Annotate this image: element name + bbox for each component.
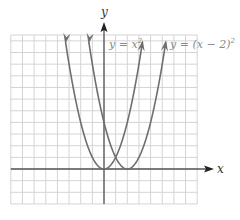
curve-label-exponent: 2: [137, 37, 143, 45]
curve-label-text: y = x: [108, 38, 138, 51]
curve-label-y-equals-x-squared: y = x2: [108, 37, 143, 51]
y-axis-label: y: [100, 5, 108, 19]
curve-label-exponent: 2: [229, 37, 235, 45]
x-axis-label: x: [217, 162, 224, 176]
curve-label-text: y = (x − 2): [169, 38, 230, 51]
curve-label-y-equals-x-minus-2-squared: y = (x − 2)2: [169, 37, 235, 51]
parabola-chart: x y y = x2 y = (x − 2)2: [0, 0, 240, 220]
